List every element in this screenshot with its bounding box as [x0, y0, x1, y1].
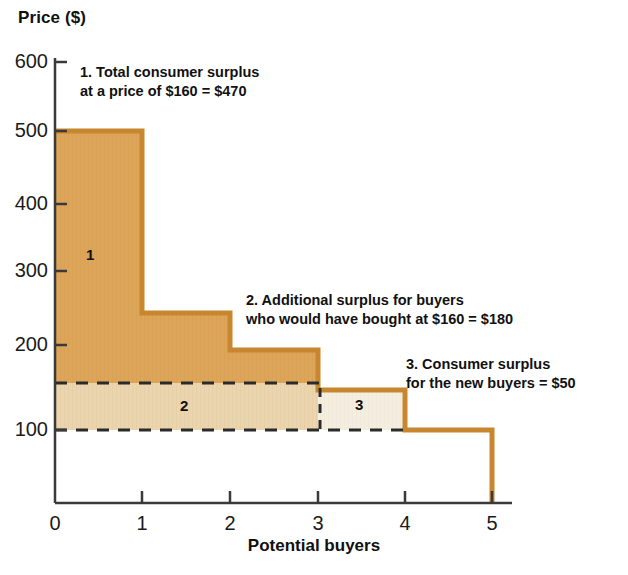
region-label-2: 2: [180, 397, 188, 414]
annotation-3-line-1: 3. Consumer surplus: [406, 355, 576, 374]
annotation-1-line-1: 1. Total consumer surplus: [80, 63, 259, 82]
x-axis-title: Potential buyers: [0, 536, 628, 556]
annotation-1: 1. Total consumer surplus at a price of …: [80, 63, 259, 101]
annotation-2: 2. Additional surplus for buyers who wou…: [246, 291, 513, 329]
annotation-3-line-2: for the new buyers = $50: [406, 374, 576, 393]
surplus-region-1: [55, 131, 318, 383]
region-label-1: 1: [86, 246, 94, 263]
annotation-1-line-2: at a price of $160 = $470: [80, 82, 259, 101]
annotation-3: 3. Consumer surplus for the new buyers =…: [406, 355, 576, 393]
annotation-2-line-2: who would have bought at $160 = $180: [246, 310, 513, 329]
chart-canvas: Price ($) 600 500 400 300 200 100 0 1 2 …: [0, 0, 628, 575]
annotation-2-line-1: 2. Additional surplus for buyers: [246, 291, 513, 310]
region-label-3: 3: [355, 396, 363, 413]
x-axis: [55, 491, 512, 503]
